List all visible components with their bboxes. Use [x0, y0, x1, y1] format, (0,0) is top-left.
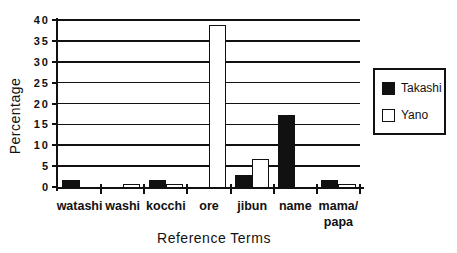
x-category-label: ore [199, 198, 218, 214]
y-tick-label: 30 [14, 55, 50, 69]
bar-chart-figure: Percentage 0510152025303540watashiwashik… [0, 0, 457, 253]
y-axis-line [56, 18, 58, 191]
x-axis-tick [273, 184, 275, 194]
x-category-label: washi [105, 198, 140, 214]
takashi-filled-square-icon [382, 82, 395, 95]
y-tick-label: 5 [14, 159, 50, 173]
x-category-label: jibun [237, 198, 267, 214]
x-axis-tick [143, 184, 145, 194]
y-tick-label: 0 [14, 180, 50, 194]
yano-outlined-square-icon [382, 109, 395, 122]
y-tick-label: 40 [14, 13, 50, 27]
x-axis-tick [100, 184, 102, 194]
y-tick-label: 20 [14, 97, 50, 111]
x-axis-tick [316, 184, 318, 194]
x-category-label: watashi [57, 198, 103, 214]
legend: Takashi Yano [373, 68, 446, 135]
legend-label-takashi: Takashi [401, 81, 442, 95]
legend-item-takashi: Takashi [382, 81, 444, 95]
y-tick-label: 10 [14, 138, 50, 152]
x-axis-tick [359, 184, 361, 194]
bar-yano-jibun [252, 159, 269, 188]
bar-yano-ore [209, 25, 226, 188]
x-category-label: name [279, 198, 312, 214]
y-tick-label: 15 [14, 117, 50, 131]
bar-takashi-name [278, 115, 295, 188]
y-tick-label: 25 [14, 76, 50, 90]
legend-label-yano: Yano [401, 108, 428, 122]
x-axis-tick [186, 184, 188, 194]
x-axis-title: Reference Terms [104, 230, 324, 246]
y-gridline [58, 19, 360, 21]
y-tick-label: 35 [14, 34, 50, 48]
x-category-label: mama/ papa [319, 198, 359, 230]
x-category-label: kocchi [146, 198, 186, 214]
legend-item-yano: Yano [382, 108, 444, 122]
x-axis-tick [230, 184, 232, 194]
